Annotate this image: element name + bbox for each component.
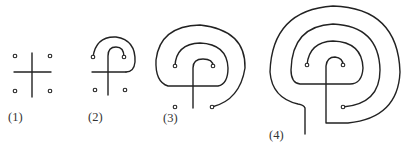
dot-bottom-left (173, 105, 177, 109)
dot-top-left (173, 64, 177, 68)
dot-bottom-left (93, 88, 97, 92)
dot-top-left (91, 55, 95, 59)
dot-top-right (122, 55, 126, 59)
panel-1-seed-pattern (13, 53, 52, 97)
dot-top-left (13, 54, 17, 58)
panel-4-complete-labyrinth (270, 6, 400, 134)
dot-top-right (211, 64, 215, 68)
outer-arc (93, 37, 135, 72)
inner-wall-path (291, 24, 380, 107)
dot-bottom-right (210, 105, 214, 109)
panel-2-label: (2) (88, 111, 103, 124)
labyrinth-construction-diagram (0, 0, 409, 146)
panel-2-first-arcs (91, 37, 135, 95)
dot-bottom-left (13, 89, 17, 93)
panel-3-more-circuits (156, 25, 245, 109)
dot-bottom-right (123, 88, 127, 92)
outer-circuit-path (156, 25, 245, 107)
inner-arc (108, 47, 124, 95)
panel-4-label: (4) (269, 129, 284, 142)
dot-bottom-right (48, 89, 52, 93)
dot-inner-right (341, 63, 345, 67)
panel-3-label: (3) (163, 112, 178, 125)
dot-lower-right (341, 105, 345, 109)
center-line-arc (193, 59, 213, 108)
dot-inner-left (305, 63, 309, 67)
dot-top-right (48, 54, 52, 58)
panel-1-label: (1) (8, 111, 23, 124)
